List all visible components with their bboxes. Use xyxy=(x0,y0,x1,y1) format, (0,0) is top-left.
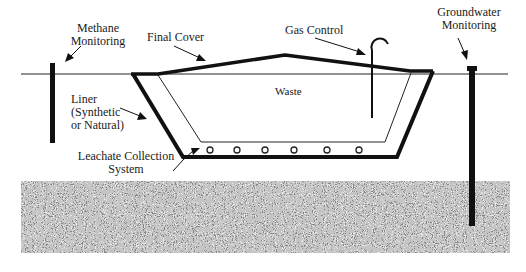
groundwater-arrow xyxy=(458,38,468,60)
gas-control-label: Gas Control xyxy=(285,24,343,37)
final-cover-arrow xyxy=(174,46,206,61)
leachate-pipe xyxy=(207,147,213,153)
groundwater-monitoring-label: Groundwater Monitoring xyxy=(424,6,514,32)
leachate-pipe xyxy=(262,147,268,153)
groundwater-label-line2: Monitoring xyxy=(424,19,514,32)
leachate-label-line2: System xyxy=(76,163,176,176)
ground-soil xyxy=(21,181,510,253)
liner-label-line3: or Natural) xyxy=(71,119,124,132)
liner xyxy=(133,71,433,157)
leachate-pipe xyxy=(324,147,330,153)
final-cover-label: Final Cover xyxy=(147,31,204,44)
methane-label-line2: Monitoring xyxy=(62,35,134,48)
final-cover xyxy=(131,55,433,74)
liner-arrow xyxy=(120,108,147,120)
inner-liner xyxy=(158,73,411,142)
leachate-pipe xyxy=(291,147,297,153)
methane-monitoring-well xyxy=(50,63,55,143)
leachate-pipe xyxy=(356,147,362,153)
leachate-collection-pipes xyxy=(207,147,362,153)
methane-monitoring-label: Methane Monitoring xyxy=(62,22,134,48)
leachate-pipe xyxy=(234,147,240,153)
leachate-arrow xyxy=(173,148,200,171)
gas-control-vent xyxy=(371,38,388,118)
methane-arrow xyxy=(65,46,81,62)
leachate-collection-label: Leachate Collection System xyxy=(76,150,176,176)
liner-label: Liner (Synthetic or Natural) xyxy=(71,93,124,132)
waste-label: Waste xyxy=(275,85,302,98)
gas-control-arrow xyxy=(315,38,366,55)
